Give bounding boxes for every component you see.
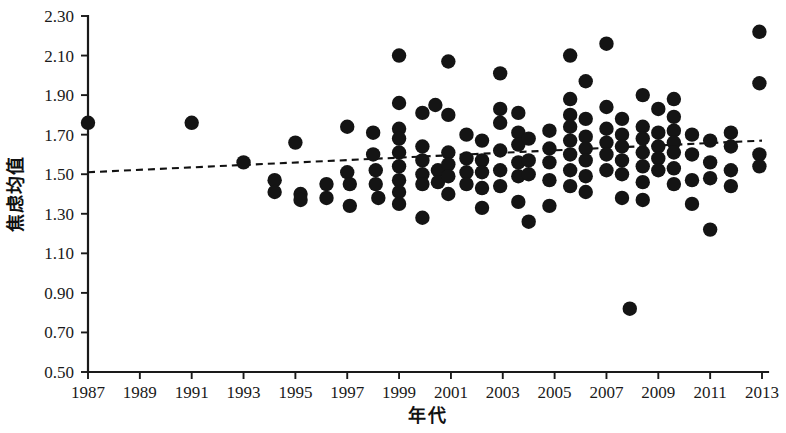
data-point [636,145,650,159]
data-point [703,133,717,147]
y-tick-label: 1.50 [44,165,74,184]
data-point [441,54,455,68]
data-point [703,171,717,185]
x-tick-label: 2013 [745,383,779,402]
data-point [667,177,681,191]
data-point [475,165,489,179]
data-point [615,112,629,126]
data-point [563,120,577,134]
data-point [703,222,717,236]
y-axis-ticks: 0.500.700.901.101.301.501.701.902.102.30 [44,7,88,382]
data-point [369,177,383,191]
data-point [563,48,577,62]
data-point [415,153,429,167]
data-point [415,139,429,153]
data-point [752,25,766,39]
data-point [493,66,507,80]
data-point [184,116,198,130]
y-tick-label: 0.70 [44,323,74,342]
y-tick-label: 2.10 [44,47,74,66]
data-point [521,131,535,145]
x-axis-ticks: 1987198919911993199519971999200120032005… [71,372,779,402]
data-point [428,98,442,112]
data-point [366,125,380,139]
data-point [563,133,577,147]
x-tick-label: 1987 [71,383,106,402]
data-point [392,96,406,110]
x-axis-title: 年代 [408,405,448,426]
data-point [493,116,507,130]
y-tick-label: 0.90 [44,284,74,303]
y-tick-label: 2.30 [44,7,74,26]
data-point [542,141,556,155]
data-point [542,124,556,138]
data-point [599,36,613,50]
data-point [752,159,766,173]
data-point [615,139,629,153]
data-point [493,143,507,157]
data-point [599,100,613,114]
data-point [319,191,333,205]
data-point [636,159,650,173]
data-point [441,187,455,201]
data-point [392,145,406,159]
data-point [703,155,717,169]
data-point [415,106,429,120]
x-tick-label: 1989 [123,383,157,402]
data-point [636,88,650,102]
data-point [636,131,650,145]
data-point [415,177,429,191]
x-tick-label: 2007 [589,383,624,402]
data-point [340,165,354,179]
data-point [579,185,593,199]
y-tick-label: 1.10 [44,244,74,263]
data-point [459,127,473,141]
x-tick-label: 1995 [278,383,312,402]
data-point [371,191,385,205]
data-point [599,147,613,161]
data-point [599,163,613,177]
data-point [415,211,429,225]
data-point [542,155,556,169]
data-point [340,120,354,134]
data-point [685,147,699,161]
data-point [579,153,593,167]
data-point [267,185,281,199]
data-point [615,191,629,205]
data-point [493,102,507,116]
data-point [724,163,738,177]
data-point [392,197,406,211]
data-point [542,173,556,187]
data-point [475,133,489,147]
y-tick-label: 0.50 [44,363,74,382]
x-tick-label: 1999 [382,383,416,402]
data-point [441,169,455,183]
data-point [636,175,650,189]
data-point [651,102,665,116]
data-point [615,167,629,181]
data-point [521,167,535,181]
data-point [392,131,406,145]
x-tick-label: 2005 [538,383,572,402]
data-point [579,74,593,88]
data-point [392,159,406,173]
data-point [623,302,637,316]
data-point [441,108,455,122]
chart-canvas: 0.500.700.901.101.301.501.701.902.102.30… [0,0,786,433]
data-point [343,177,357,191]
data-point [366,147,380,161]
data-point [511,195,525,209]
scatter-chart: 0.500.700.901.101.301.501.701.902.102.30… [0,0,786,433]
data-point [493,163,507,177]
data-point [685,197,699,211]
data-point [651,163,665,177]
x-tick-label: 1991 [175,383,209,402]
data-point [475,201,489,215]
data-point [724,139,738,153]
data-point [343,199,357,213]
data-point [563,147,577,161]
data-point [615,153,629,167]
y-axis-title: 焦虑均值 [5,156,26,233]
data-point [685,127,699,141]
data-point [752,76,766,90]
